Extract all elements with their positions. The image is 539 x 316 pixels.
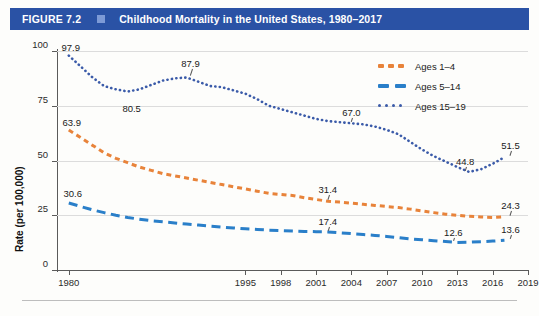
figure-container: FIGURE 7.2 Childhood Mortality in the Un… xyxy=(0,0,539,316)
x-tick-mark xyxy=(281,270,282,275)
data-point-label: 63.9 xyxy=(63,117,82,128)
y-tick-mark xyxy=(52,270,57,271)
legend-label: Ages 15–19 xyxy=(415,101,466,112)
figure-title-bar: FIGURE 7.2 Childhood Mortality in the Un… xyxy=(10,8,529,30)
series-line xyxy=(69,203,505,242)
legend-item[interactable]: Ages 5–14 xyxy=(378,78,466,94)
x-tick-label: 1995 xyxy=(225,277,265,288)
x-tick-label: 1980 xyxy=(49,277,89,288)
data-point-label: 97.9 xyxy=(62,42,81,53)
x-tick-mark xyxy=(457,270,458,275)
x-tick-label: 2004 xyxy=(331,277,371,288)
x-tick-label: 2016 xyxy=(473,277,513,288)
data-point-label: 87.9 xyxy=(181,58,200,69)
x-tick-mark xyxy=(422,270,423,275)
x-tick-label: 2019 xyxy=(508,277,539,288)
data-point-label: 67.0 xyxy=(342,107,361,118)
y-tick-label: 100 xyxy=(16,39,48,50)
bottom-rule xyxy=(22,300,517,301)
x-tick-mark xyxy=(528,270,529,275)
y-tick-label: 25 xyxy=(16,203,48,214)
x-tick-label: 2007 xyxy=(367,277,407,288)
x-tick-label: 2013 xyxy=(437,277,477,288)
figure-number: FIGURE 7.2 xyxy=(22,13,81,25)
x-tick-mark xyxy=(387,270,388,275)
data-point-label: 24.3 xyxy=(501,200,520,211)
legend-label: Ages 1–4 xyxy=(415,61,455,72)
square-marker-icon xyxy=(97,15,105,23)
legend-item[interactable]: Ages 1–4 xyxy=(378,58,466,74)
legend-item[interactable]: Ages 15–19 xyxy=(378,98,466,114)
data-point-label: 13.6 xyxy=(501,224,520,235)
x-tick-mark xyxy=(351,270,352,275)
legend-swatch-icon xyxy=(378,81,408,91)
data-point-label: 17.4 xyxy=(319,216,338,227)
legend-label: Ages 5–14 xyxy=(415,81,460,92)
data-point-label: 80.5 xyxy=(122,103,141,114)
x-tick-label: 2001 xyxy=(296,277,336,288)
x-tick-mark xyxy=(69,270,70,275)
legend-swatch-icon xyxy=(378,101,408,111)
data-point-label: 44.8 xyxy=(456,156,475,167)
x-tick-label: 1998 xyxy=(261,277,301,288)
data-point-label: 51.5 xyxy=(501,140,520,151)
x-tick-mark xyxy=(245,270,246,275)
data-point-label: 31.4 xyxy=(319,184,338,195)
x-tick-mark xyxy=(316,270,317,275)
y-tick-label: 75 xyxy=(16,94,48,105)
x-tick-mark xyxy=(493,270,494,275)
chart-legend: Ages 1–4Ages 5–14Ages 15–19 xyxy=(378,58,466,118)
x-tick-label: 2010 xyxy=(402,277,442,288)
series-line xyxy=(69,130,505,217)
data-point-label: 30.6 xyxy=(64,188,83,199)
legend-swatch-icon xyxy=(378,61,408,71)
y-tick-label: 0 xyxy=(16,258,48,269)
y-tick-label: 50 xyxy=(16,149,48,160)
figure-title: Childhood Mortality in the United States… xyxy=(119,13,382,25)
